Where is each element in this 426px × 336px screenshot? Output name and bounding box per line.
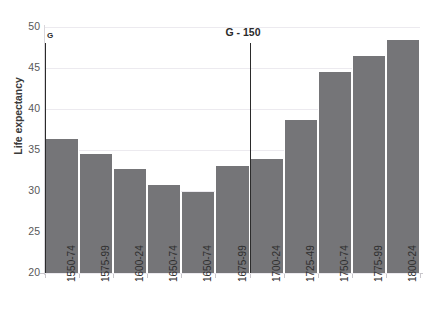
x-axis-tick-label: 1600-24 bbox=[134, 245, 145, 282]
annotation-line bbox=[250, 43, 251, 273]
x-axis-tick-label: 1650-74 bbox=[168, 245, 179, 282]
x-axis-tick-mark bbox=[420, 274, 421, 278]
x-axis-tick-label: 1675-99 bbox=[237, 245, 248, 282]
y-axis-tick-label: 45 bbox=[14, 62, 40, 73]
x-axis-tick-mark bbox=[181, 274, 182, 278]
x-axis-tick-label: 1575-99 bbox=[100, 245, 111, 282]
x-axis-tick-mark bbox=[147, 274, 148, 278]
x-axis-tick-label: 1800-24 bbox=[407, 245, 418, 282]
x-axis-tick-mark bbox=[318, 274, 319, 278]
x-axis-tick-mark bbox=[250, 274, 251, 278]
annotation-line bbox=[45, 43, 46, 273]
plot-area bbox=[45, 27, 420, 273]
bar[interactable] bbox=[318, 72, 352, 273]
x-axis-tick-mark bbox=[215, 274, 216, 278]
x-axis-tick-labels: 1550-741575-991600-241650-741650-741675-… bbox=[45, 274, 420, 336]
y-axis-tick-label: 25 bbox=[14, 226, 40, 237]
x-axis-tick-label: 1550-74 bbox=[66, 245, 77, 282]
y-axis-tick-label: 40 bbox=[14, 103, 40, 114]
chart-container: Life expectancy 50454035302520 1550-7415… bbox=[0, 0, 426, 336]
x-axis-tick-label: 1725-49 bbox=[305, 245, 316, 282]
x-axis-tick-label: 1775-99 bbox=[373, 245, 384, 282]
bar[interactable] bbox=[352, 56, 386, 273]
x-axis-tick-label: 1700-24 bbox=[271, 245, 282, 282]
annotation-label: G - 150 bbox=[226, 27, 261, 38]
x-axis-tick-mark bbox=[284, 274, 285, 278]
y-axis-tick-labels: 50454035302520 bbox=[8, 0, 40, 336]
y-axis-tick-label: 20 bbox=[14, 267, 40, 278]
x-axis-tick-label: 1750-74 bbox=[339, 245, 350, 282]
bar[interactable] bbox=[386, 40, 420, 273]
y-axis-tick-label: 50 bbox=[14, 21, 40, 32]
x-axis-tick-mark bbox=[386, 274, 387, 278]
y-axis-tick-label: 35 bbox=[14, 144, 40, 155]
x-axis-tick-mark bbox=[79, 274, 80, 278]
x-axis-tick-mark bbox=[113, 274, 114, 278]
x-axis-tick-mark bbox=[45, 274, 46, 278]
x-axis-tick-mark bbox=[352, 274, 353, 278]
annotation-label: G bbox=[47, 32, 53, 40]
y-axis-tick-label: 30 bbox=[14, 185, 40, 196]
x-axis-tick-label: 1650-74 bbox=[202, 245, 213, 282]
